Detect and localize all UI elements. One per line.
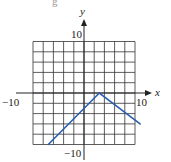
y-axis-arrow-icon: [81, 19, 87, 26]
graph-figure: g x y −10 10 10 −10: [0, 0, 171, 162]
y-axis: [81, 19, 87, 160]
y-tick-bottom: −10: [64, 147, 82, 159]
x-tick-right: 10: [136, 96, 148, 108]
y-tick-top: 10: [71, 28, 83, 40]
y-axis-label: y: [79, 5, 85, 17]
x-tick-left: −10: [2, 96, 20, 108]
x-axis-label: x: [154, 86, 160, 98]
cropped-top-text: g: [52, 0, 58, 7]
